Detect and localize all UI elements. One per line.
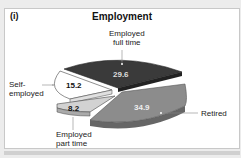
divider (4, 151, 240, 155)
value-full-time: 29.6 (113, 70, 129, 79)
label-part-time: Employed part time (56, 130, 92, 148)
value-self-employed: 15.2 (66, 81, 82, 90)
value-retired: 34.9 (134, 103, 150, 112)
label-full-time: Employed full time (109, 29, 145, 47)
value-part-time: 8.2 (68, 104, 79, 113)
label-self-employed: Self- employed (9, 80, 44, 98)
pie-chart (0, 0, 241, 158)
label-retired: Retired (201, 109, 227, 118)
